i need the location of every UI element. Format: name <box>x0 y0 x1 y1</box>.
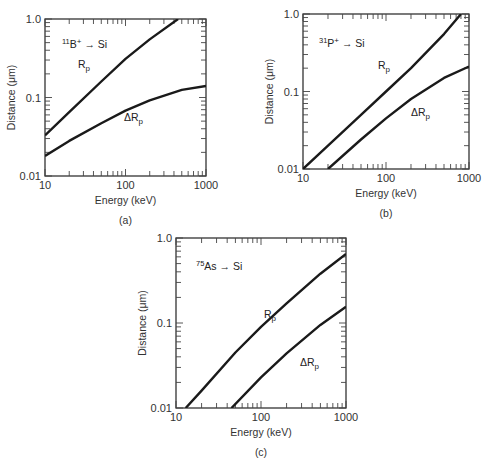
ion-species-annotation: 75As → Si <box>196 259 242 272</box>
series-line-rp <box>186 254 346 408</box>
ion-species-annotation: 11B+ → Si <box>62 37 107 50</box>
y-tick-label: 1.0 <box>26 13 41 25</box>
series-label: Rp <box>78 58 91 73</box>
x-tick-label: 100 <box>116 179 134 191</box>
y-tick-label: 1.0 <box>157 232 172 244</box>
series-label: Rp <box>264 308 277 323</box>
series-line-delta-rp <box>328 67 469 170</box>
y-tick-label: 0.01 <box>278 163 299 175</box>
x-tick-label: 1000 <box>194 179 218 191</box>
series-line-delta-rp <box>232 307 347 408</box>
y-tick-label: 1.0 <box>284 8 299 20</box>
y-axis-title: Distance (μm) <box>136 290 148 356</box>
y-tick-label: 0.01 <box>20 170 41 182</box>
x-tick-label: 100 <box>252 411 270 423</box>
x-tick-label: 1000 <box>457 172 481 184</box>
y-tick-label: 0.1 <box>26 92 41 104</box>
chart-a: 1010010000.010.11.0Energy (keV)Distance … <box>5 13 218 226</box>
figure-caption: (c) <box>255 446 267 458</box>
ion-species-annotation: 31P+ → Si <box>319 36 365 49</box>
figure-canvas: 1010010000.010.11.0Energy (keV)Distance … <box>0 0 488 462</box>
y-tick-label: 0.01 <box>151 402 172 414</box>
x-tick-label: 1000 <box>334 411 358 423</box>
chart-b: 1010010000.010.11.0Energy (keV)Distance … <box>263 8 481 219</box>
y-axis-title: Distance (μm) <box>263 59 275 125</box>
series-label: Rp <box>378 59 391 74</box>
x-axis-title: Energy (keV) <box>230 426 291 438</box>
y-tick-label: 0.1 <box>284 86 299 98</box>
x-axis-title: Energy (keV) <box>95 194 156 206</box>
series-label: ΔRp <box>411 106 431 121</box>
series-label: ΔRp <box>124 111 144 126</box>
series-label: ΔRp <box>300 356 320 371</box>
y-axis-title: Distance (μm) <box>5 65 17 131</box>
y-tick-label: 0.1 <box>157 317 172 329</box>
chart-c: 1010010000.010.11.0Energy (keV)Distance … <box>136 232 358 458</box>
x-tick-label: 100 <box>377 172 395 184</box>
x-axis-title: Energy (keV) <box>355 187 416 199</box>
figure-caption: (a) <box>119 214 132 226</box>
figure-caption: (b) <box>380 207 393 219</box>
